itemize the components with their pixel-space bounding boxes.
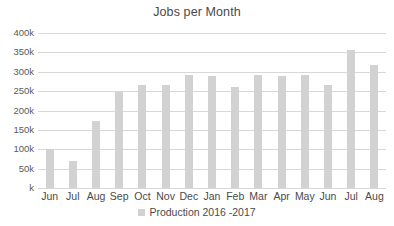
bar[interactable] — [69, 161, 77, 188]
x-tick-label: Jun — [41, 190, 58, 204]
gridline-0 — [38, 188, 386, 189]
bar[interactable] — [138, 85, 146, 188]
x-tick-label: Feb — [226, 190, 244, 204]
y-tick-label: 50k — [19, 164, 34, 174]
x-tick-label: Jan — [204, 190, 221, 204]
y-tick-label: 100k — [13, 145, 34, 155]
bar-chart: Jobs per Month 400k350k300k250k200k150k1… — [0, 0, 394, 226]
x-tick-label: Jul — [344, 190, 357, 204]
bar[interactable] — [278, 76, 286, 188]
x-tick-label: Nov — [156, 190, 175, 204]
bar[interactable] — [162, 85, 170, 188]
chart-title: Jobs per Month — [0, 5, 394, 19]
bar[interactable] — [92, 121, 100, 188]
bar[interactable] — [301, 75, 309, 188]
bar[interactable] — [185, 75, 193, 188]
x-tick-label: Apr — [273, 190, 289, 204]
x-tick-label: Aug — [365, 190, 384, 204]
bar[interactable] — [208, 76, 216, 188]
bar[interactable] — [46, 149, 54, 188]
bar[interactable] — [231, 87, 239, 188]
bar[interactable] — [115, 92, 123, 188]
x-tick-label: Jun — [320, 190, 337, 204]
y-tick-label: 400k — [13, 28, 34, 38]
x-tick-label: Oct — [134, 190, 150, 204]
x-tick-label: Jul — [66, 190, 79, 204]
y-tick-label: 300k — [13, 67, 34, 77]
legend-label-production: Production 2016 -2017 — [149, 206, 255, 218]
y-tick-label: 350k — [13, 48, 34, 58]
y-tick-label: 200k — [13, 106, 34, 116]
y-tick-label: k — [29, 183, 34, 193]
x-tick-label: Mar — [249, 190, 267, 204]
bar[interactable] — [347, 50, 355, 188]
x-tick-label: May — [295, 190, 315, 204]
x-axis: JunJulAugSepOctNovDecJanFebMarAprMayJunJ… — [38, 190, 386, 206]
bar[interactable] — [324, 85, 332, 188]
x-tick-label: Aug — [87, 190, 106, 204]
x-tick-label: Dec — [179, 190, 198, 204]
legend-swatch-production — [138, 209, 145, 216]
x-tick-label: Sep — [110, 190, 129, 204]
bars-layer — [38, 33, 386, 188]
chart-legend: Production 2016 -2017 — [0, 206, 394, 218]
y-tick-label: 250k — [13, 86, 34, 96]
bar[interactable] — [254, 75, 262, 188]
bar[interactable] — [370, 65, 378, 188]
y-tick-label: 150k — [13, 125, 34, 135]
y-axis: 400k350k300k250k200k150k100k50kk — [0, 33, 34, 188]
